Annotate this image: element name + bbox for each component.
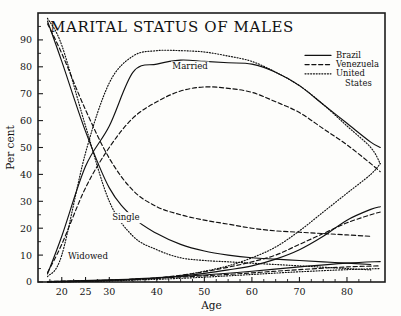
x-axis-title: Age bbox=[200, 299, 222, 311]
series-line-single-brazil bbox=[48, 21, 371, 264]
marital-status-chart: 01020304050607080902025304050607080MARIT… bbox=[0, 0, 401, 316]
x-tick-label: 60 bbox=[246, 286, 258, 297]
x-tick-label: 30 bbox=[103, 286, 115, 297]
legend-label-states: States bbox=[345, 78, 372, 88]
y-tick-label: 80 bbox=[20, 61, 32, 72]
x-tick-label: 40 bbox=[151, 286, 163, 297]
plot-frame bbox=[38, 13, 385, 282]
annotation-married: Married bbox=[172, 61, 208, 71]
chart-title: MARITAL STATUS OF MALES bbox=[50, 18, 294, 36]
series-line-married-united-states bbox=[48, 50, 381, 276]
series-line-single-united-states bbox=[48, 18, 371, 270]
x-tick-label: 80 bbox=[341, 286, 353, 297]
y-tick-label: 60 bbox=[20, 115, 32, 126]
y-tick-label: 10 bbox=[20, 250, 32, 261]
y-axis-title: Per cent bbox=[4, 125, 16, 170]
y-tick-label: 50 bbox=[20, 142, 32, 153]
chart-root: 01020304050607080902025304050607080MARIT… bbox=[0, 0, 401, 316]
y-tick-label: 30 bbox=[20, 196, 32, 207]
annotation-widowed: Widowed bbox=[68, 251, 109, 261]
x-tick-label: 70 bbox=[293, 286, 305, 297]
y-tick-label: 40 bbox=[20, 169, 32, 180]
y-tick-label: 0 bbox=[26, 276, 32, 287]
axes-layer bbox=[38, 13, 385, 282]
x-tick-label: 25 bbox=[79, 286, 91, 297]
y-tick-label: 20 bbox=[20, 223, 32, 234]
annotation-single: Single bbox=[112, 212, 140, 222]
y-tick-label: 70 bbox=[20, 88, 32, 99]
y-tick-label: 90 bbox=[20, 34, 32, 45]
x-tick-label: 20 bbox=[56, 286, 68, 297]
series-layer bbox=[48, 18, 381, 282]
x-tick-label: 50 bbox=[198, 286, 210, 297]
